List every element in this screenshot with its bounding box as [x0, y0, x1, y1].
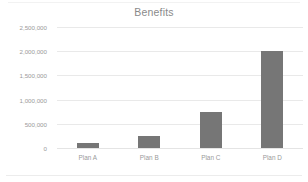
y-axis-tick-label: 1,500,000 — [0, 72, 47, 79]
gridline — [57, 148, 303, 149]
y-axis-tick-label: 0 — [0, 145, 47, 152]
y-axis-tick-label: 2,000,000 — [0, 48, 47, 55]
y-axis-tick-label: 2,500,000 — [0, 24, 47, 31]
bar — [77, 143, 99, 148]
gridline — [57, 27, 303, 28]
chart-title: Benefits — [0, 6, 308, 18]
bar-chart: Benefits 0500,0001,000,0001,500,0002,000… — [0, 0, 308, 182]
x-axis-tick-label: Plan D — [263, 154, 282, 161]
x-axis-tick-label: Plan A — [79, 154, 97, 161]
plot-area: 0500,0001,000,0001,500,0002,000,0002,500… — [57, 27, 303, 148]
x-axis-tick-label: Plan B — [140, 154, 159, 161]
bar — [261, 51, 283, 148]
bar — [200, 112, 222, 148]
chart-frame-top-edge — [8, 2, 300, 3]
chart-frame-bottom-edge — [6, 175, 302, 176]
y-axis-tick-label: 1,000,000 — [0, 96, 47, 103]
x-axis-tick-label: Plan C — [201, 154, 220, 161]
bar — [138, 136, 160, 148]
y-axis-tick-label: 500,000 — [0, 120, 47, 127]
